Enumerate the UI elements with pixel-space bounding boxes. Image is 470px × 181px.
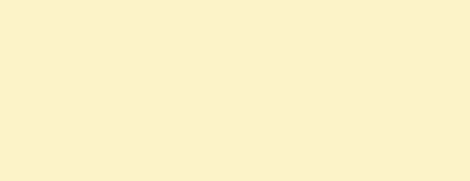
diagram-outline [22,15,446,82]
network-border [22,15,446,82]
figure-border [22,15,446,82]
figure-box [22,15,215,82]
network-diagram [0,0,470,181]
content-frame [22,15,215,82]
main-frame [22,15,446,82]
panel-border [22,15,446,82]
diagram-frame-rect [22,15,446,82]
figure-frame [22,15,446,82]
diagram-panel [22,15,446,82]
